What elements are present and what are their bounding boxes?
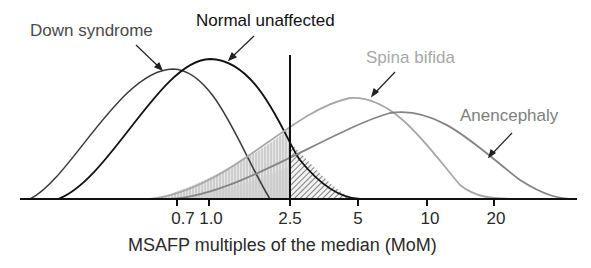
tick-label-20: 20 bbox=[487, 210, 506, 227]
x-axis-ticks bbox=[177, 199, 494, 206]
label-arrows bbox=[136, 36, 512, 157]
tick-label-2-5: 2.5 bbox=[278, 210, 302, 227]
down-syndrome-label: Down syndrome bbox=[30, 22, 153, 39]
tick-label-10: 10 bbox=[421, 210, 440, 227]
x-axis-title: MSAFP multiples of the median (MoM) bbox=[128, 236, 437, 254]
normal-tail-shade bbox=[290, 143, 355, 199]
anencephaly-label: Anencephaly bbox=[460, 107, 558, 124]
spina-bifida-label: Spina bifida bbox=[366, 49, 455, 66]
tick-label-5: 5 bbox=[353, 210, 362, 227]
tick-label-0-7: 0.7 bbox=[171, 210, 195, 227]
tick-label-1-0: 1.0 bbox=[199, 210, 223, 227]
normal-unaffected-label: Normal unaffected bbox=[196, 12, 335, 29]
